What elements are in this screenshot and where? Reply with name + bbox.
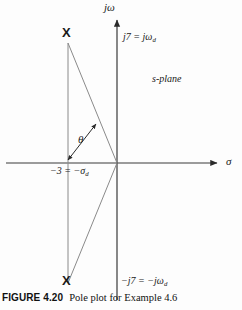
vector-to-upper-pole [68,43,117,163]
pole-plot-canvas [0,0,242,310]
lower-imaginary-value-text: −j7 = −jω [121,275,164,286]
upper-imaginary-value-label: j7 = jωd [123,32,156,44]
pole-plot-figure: jω σ j7 = jωd −j7 = −jωd −3 = −σd θ s-pl… [0,0,242,310]
angle-label: θ [78,134,83,145]
pole-marker-lower: X [62,274,71,287]
real-value-label: −3 = −σd [50,166,89,178]
lower-imaginary-subscript: d [164,280,167,287]
pole-marker-upper: X [62,26,71,39]
upper-imaginary-subscript: d [152,36,155,43]
lower-imaginary-value-label: −j7 = −jωd [121,276,167,288]
imaginary-axis-label: jω [104,2,115,13]
real-axis-label: σ [226,156,231,167]
real-value-text: −3 = −σ [50,165,85,176]
figure-caption: FIGURE 4.20Pole plot for Example 4.6 [2,292,242,303]
figure-caption-text: Pole plot for Example 4.6 [69,292,177,303]
real-subscript: d [85,170,88,177]
vector-to-lower-pole [68,163,117,283]
upper-imaginary-value-text: j7 = jω [123,31,152,42]
figure-caption-tag: FIGURE 4.20 [2,292,63,303]
plane-label-text: s-plane [152,73,181,84]
plane-label: s-plane [152,74,181,84]
